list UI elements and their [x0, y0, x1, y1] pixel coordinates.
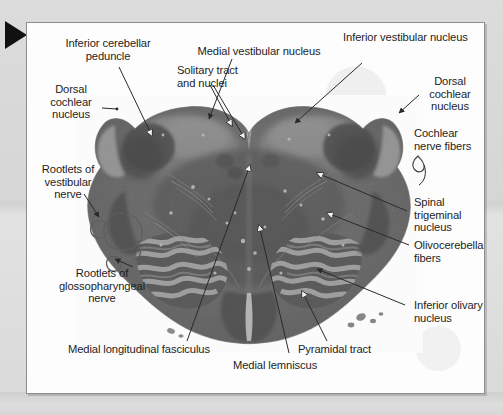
label-dorsal-cochlear-nucleus-right: Dorsal cochlear nucleus [415, 75, 485, 113]
right-triangle-marker-icon [5, 21, 27, 49]
label-pyramidal-tract: Pyramidal tract [298, 343, 398, 356]
page-lower-band [0, 392, 503, 415]
label-spinal-trigeminal-nucleus: Spinal trigeminal nucleus [414, 196, 485, 234]
label-olivocerebellar-fibers: Olivocerebellar fibers [414, 239, 485, 264]
label-medial-longitudinal-fasciculus: Medial longitudinal fasciculus [68, 343, 238, 356]
label-inferior-cerebellar-peduncle: Inferior cerebellar peduncle [43, 37, 173, 62]
label-rootlets-of-vestibular-nerve: Rootlets of vestibular nerve [29, 163, 107, 201]
label-inferior-vestibular-nucleus: Inferior vestibular nucleus [343, 31, 485, 44]
figure-page: Inferior cerebellar peduncle Dorsal coch… [0, 0, 503, 415]
label-medial-vestibular-nucleus: Medial vestibular nucleus [172, 45, 346, 58]
label-solitary-tract-and-nuclei: Solitary tract and nuclei [177, 64, 281, 89]
label-inferior-olivary-nucleus: Inferior olivary nucleus [414, 299, 485, 324]
figure-panel: Inferior cerebellar peduncle Dorsal coch… [26, 22, 485, 394]
label-dorsal-cochlear-nucleus-left: Dorsal cochlear nucleus [33, 83, 109, 121]
label-cochlear-nerve-fibers: Cochlear nerve fibers [414, 127, 485, 152]
medulla-cross-section-photomicrograph [75, 95, 423, 353]
label-rootlets-of-glossopharyngeal-nerve: Rootlets of glossopharyngeal nerve [39, 267, 165, 305]
label-medial-lemniscus: Medial lemniscus [233, 359, 343, 372]
